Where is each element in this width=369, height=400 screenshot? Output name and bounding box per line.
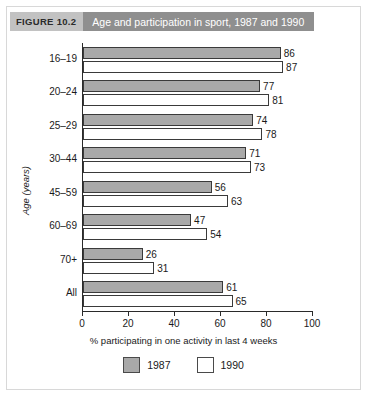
x-axis-title: % participating in one activity in last … — [7, 335, 360, 346]
bar-value-label: 74 — [256, 114, 267, 125]
figure-frame: FIGURE 10.2 Age and participation in spo… — [6, 6, 361, 390]
figure-number-tag: FIGURE 10.2 — [10, 12, 83, 31]
bar-1987: 26 — [83, 248, 143, 260]
bar-value-label: 63 — [231, 195, 242, 206]
x-tick-label: 20 — [122, 318, 133, 329]
bar-1987: 61 — [83, 281, 223, 293]
category-label: 16–19 — [7, 53, 77, 64]
x-axis-line — [82, 311, 312, 312]
legend-label: 1990 — [221, 359, 244, 371]
bar-value-label: 31 — [157, 262, 168, 273]
category-label: 70+ — [7, 254, 77, 265]
category-label: 20–24 — [7, 86, 77, 97]
x-tick — [312, 311, 313, 316]
bar-1990: 54 — [83, 228, 207, 240]
bar-1990: 87 — [83, 61, 283, 73]
bar-1987: 86 — [83, 47, 281, 59]
plot-area: 16–19868720–24778125–29747830–44717345–5… — [82, 43, 312, 311]
bar-1990: 31 — [83, 262, 154, 274]
bar-group: All6165 — [83, 281, 312, 307]
x-tick-label: 60 — [214, 318, 225, 329]
category-label: 30–44 — [7, 153, 77, 164]
bar-1990: 63 — [83, 195, 228, 207]
bar-group: 45–595663 — [83, 181, 312, 207]
bar-value-label: 56 — [215, 181, 226, 192]
bar-group: 20–247781 — [83, 80, 312, 106]
x-tick-label: 100 — [304, 318, 321, 329]
bar-1987: 56 — [83, 181, 212, 193]
bar-group: 60–694754 — [83, 214, 312, 240]
legend-swatch — [197, 357, 214, 373]
bar-1990: 65 — [83, 295, 233, 307]
category-label: All — [7, 287, 77, 298]
bar-1987: 71 — [83, 147, 246, 159]
bar-1990: 81 — [83, 94, 269, 106]
bar-group: 16–198687 — [83, 47, 312, 73]
category-label: 25–29 — [7, 120, 77, 131]
bar-value-label: 86 — [284, 47, 295, 58]
figure-title: Age and participation in sport, 1987 and… — [83, 12, 314, 31]
category-label: 60–69 — [7, 220, 77, 231]
figure-header: FIGURE 10.2 Age and participation in spo… — [10, 12, 314, 31]
bar-value-label: 54 — [210, 229, 221, 240]
legend-item-1987: 1987 — [123, 357, 170, 373]
x-tick — [174, 311, 175, 316]
bar-value-label: 77 — [263, 81, 274, 92]
bar-group: 70+2631 — [83, 248, 312, 274]
x-tick — [82, 311, 83, 316]
bar-value-label: 61 — [226, 282, 237, 293]
legend-label: 1987 — [147, 359, 170, 371]
x-tick-label: 0 — [79, 318, 85, 329]
bar-1987: 74 — [83, 114, 253, 126]
bar-group: 25–297478 — [83, 114, 312, 140]
bar-group: 30–447173 — [83, 147, 312, 173]
category-label: 45–59 — [7, 187, 77, 198]
bar-value-label: 71 — [249, 148, 260, 159]
bar-1990: 78 — [83, 128, 262, 140]
bar-1990: 73 — [83, 161, 251, 173]
bar-1987: 77 — [83, 80, 260, 92]
bar-value-label: 87 — [286, 61, 297, 72]
bar-value-label: 73 — [254, 162, 265, 173]
bar-value-label: 81 — [272, 95, 283, 106]
x-tick — [128, 311, 129, 316]
bar-1987: 47 — [83, 214, 191, 226]
legend-swatch — [123, 357, 140, 373]
x-tick-label: 40 — [168, 318, 179, 329]
legend-item-1990: 1990 — [197, 357, 244, 373]
bar-value-label: 47 — [194, 215, 205, 226]
x-tick — [266, 311, 267, 316]
bar-value-label: 78 — [265, 128, 276, 139]
x-tick — [220, 311, 221, 316]
x-tick-label: 80 — [260, 318, 271, 329]
chart-legend: 19871990 — [7, 357, 360, 373]
bar-value-label: 65 — [236, 296, 247, 307]
chart-plot: Age (years) 16–19868720–24778125–2974783… — [7, 35, 360, 389]
bar-value-label: 26 — [146, 248, 157, 259]
